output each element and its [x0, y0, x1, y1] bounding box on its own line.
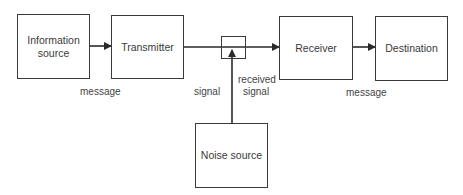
- information-source-box: Information source: [17, 14, 90, 79]
- mixer-box: [221, 36, 246, 59]
- noise-source-box: Noise source: [195, 123, 268, 188]
- message-label-right: message: [346, 87, 387, 99]
- transmitter-label: Transmitter: [121, 41, 174, 54]
- destination-label: Destination: [385, 42, 438, 55]
- received-signal-label-line1: received: [238, 74, 276, 86]
- transmitter-box: Transmitter: [111, 15, 184, 79]
- received-signal-label-line2: signal: [243, 86, 269, 98]
- receiver-box: Receiver: [279, 16, 353, 80]
- destination-box: Destination: [375, 16, 448, 81]
- information-source-label-line2: source: [27, 47, 80, 60]
- noise-source-label: Noise source: [201, 149, 262, 162]
- signal-label: signal: [194, 86, 220, 98]
- receiver-label: Receiver: [295, 42, 336, 55]
- message-label-left: message: [80, 86, 121, 98]
- information-source-label-line1: Information: [27, 34, 80, 47]
